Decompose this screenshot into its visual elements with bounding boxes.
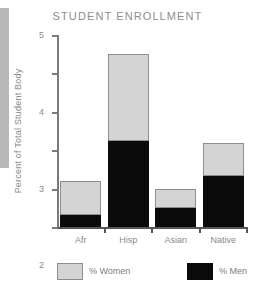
legend-label-men: % Men [219, 266, 247, 276]
plot-area: 012345 AfrHispAsianNative [57, 35, 247, 227]
bar-segment-women-afr [60, 181, 101, 216]
x-tick-label-afr: Afr [75, 235, 87, 245]
legend-swatch-men [187, 263, 213, 280]
bar-segment-men-asian [155, 208, 196, 227]
bar-group-native [203, 143, 244, 227]
chart-legend: % Women% Men [57, 258, 247, 284]
legend-item-men[interactable]: % Men [187, 263, 247, 280]
y-tick-label-4: 4 [39, 107, 44, 117]
chart-title: STUDENT ENROLLMENT [0, 10, 255, 22]
y-tick-0: 0 [52, 227, 58, 229]
y-tick-3: 3 [52, 112, 58, 114]
y-tick-1: 1 [52, 189, 58, 191]
y-axis-line [57, 35, 59, 227]
bar-segment-women-native [203, 143, 244, 176]
bar-group-hisp [108, 54, 149, 227]
y-axis-title: Percent of Total Student Body [13, 35, 27, 227]
bar-segment-men-afr [60, 215, 101, 227]
y-tick-5: 5 [52, 35, 58, 37]
legend-label-women: % Women [89, 266, 130, 276]
y-tick-2: 2 [52, 150, 58, 152]
legend-swatch-women [57, 263, 83, 280]
scan-bottom-text-artifact [46, 292, 196, 298]
bar-segment-men-hisp [108, 141, 149, 227]
legend-item-women[interactable]: % Women [57, 263, 130, 280]
bar-group-afr [60, 181, 101, 227]
x-tick-label-native: Native [210, 235, 236, 245]
x-tick-2 [151, 227, 153, 233]
x-tick-label-hisp: Hisp [119, 235, 137, 245]
bar-segment-men-native [203, 176, 244, 227]
bar-group-asian [155, 189, 196, 227]
x-tick-4 [246, 227, 248, 233]
y-tick-label-5: 5 [39, 30, 44, 40]
bar-segment-women-hisp [108, 54, 149, 140]
x-tick-1 [104, 227, 106, 233]
chart-page: STUDENT ENROLLMENT Percent of Total Stud… [0, 0, 255, 301]
x-tick-3 [199, 227, 201, 233]
y-tick-4: 4 [52, 73, 58, 75]
bar-segment-women-asian [155, 189, 196, 208]
y-tick-label-2: 2 [39, 260, 44, 270]
x-tick-label-asian: Asian [164, 235, 187, 245]
y-tick-label-3: 3 [39, 184, 44, 194]
scan-edge-artifact [0, 8, 9, 168]
